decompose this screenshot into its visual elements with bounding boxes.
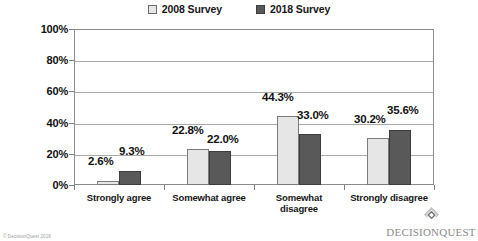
bar-label-2018-somewhat-disagree: 33.0% [297,109,329,121]
y-tick-label-0: 0% [0,179,68,191]
y-tick-label-20: 20% [0,148,68,160]
bar-label-2018-strongly-agree: 9.3% [119,145,144,157]
bar-group-strongly-disagree: 30.2% 35.6% [344,29,434,185]
legend-label-2018-survey: 2018 Survey [270,3,330,15]
x-tick-mark-2 [254,185,255,190]
dark-square-swatch-icon [256,5,265,14]
bar-group-somewhat-disagree: 44.3% 33.0% [254,29,344,185]
light-square-swatch-icon [148,5,157,14]
decisionquest-diamond-logo-icon [422,206,441,225]
legend-item-2008-survey[interactable]: 2008 Survey [148,3,222,15]
bar-group-somewhat-agree: 22.8% 22.0% [164,29,254,185]
bars-layer: 2.6% 9.3% 22.8% 22.0% 44.3% 33.0% 30.2% … [74,29,434,185]
decisionquest-wordmark: DECISIONQUEST [386,226,475,238]
bar-2018-somewhat-agree[interactable] [209,151,231,185]
x-tick-mark-1 [164,185,165,190]
y-tick-label-100: 100% [0,23,68,35]
bar-label-2008-strongly-disagree: 30.2% [354,113,386,125]
x-axis: Strongly agree Somewhat agree Somewhat d… [74,192,434,226]
bar-label-2018-somewhat-agree: 22.0% [207,133,239,145]
x-tick-label-strongly-agree: Strongly agree [74,192,164,203]
bar-2018-strongly-disagree[interactable] [389,130,411,186]
bar-label-2008-somewhat-agree: 22.8% [172,124,204,136]
bar-label-2018-strongly-disagree: 35.6% [387,104,419,116]
decisionquest-branding: DECISIONQUEST [388,202,474,238]
bar-2008-somewhat-agree[interactable] [187,149,209,185]
legend-label-2008-survey: 2008 Survey [162,3,222,15]
bar-group-strongly-agree: 2.6% 9.3% [74,29,164,185]
bar-2018-somewhat-disagree[interactable] [299,134,321,186]
chart-legend: 2008 Survey 2018 Survey [0,3,478,15]
x-tick-label-somewhat-agree: Somewhat agree [164,192,254,203]
legend-item-2018-survey[interactable]: 2018 Survey [256,3,330,15]
x-tick-mark-4 [434,185,435,190]
bar-label-2008-somewhat-disagree: 44.3% [262,91,294,103]
y-tick-label-40: 40% [0,117,68,129]
y-axis: 100% 80% 60% 40% 20% 0% [0,0,68,241]
bar-2008-strongly-agree[interactable] [97,181,119,185]
survey-comparison-bar-chart: 2008 Survey 2018 Survey 100% 80% 60% 40%… [0,0,478,241]
bar-2008-strongly-disagree[interactable] [367,138,389,185]
bar-label-2008-strongly-agree: 2.6% [88,155,113,167]
x-tick-label-somewhat-disagree: Somewhat disagree [257,192,341,214]
y-tick-label-60: 60% [0,85,68,97]
x-tick-mark-3 [344,185,345,190]
y-tick-label-80: 80% [0,54,68,66]
x-tick-mark-0 [74,185,75,190]
copyright-notice: © DecisionQuest 2018 [3,234,51,239]
bar-2008-somewhat-disagree[interactable] [277,116,299,185]
bar-2018-strongly-agree[interactable] [119,171,141,186]
